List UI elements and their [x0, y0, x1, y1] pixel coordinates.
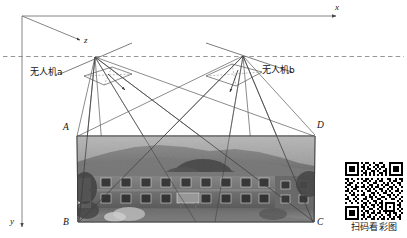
x-axis-label: x — [335, 3, 339, 12]
z-axis-label: z — [84, 36, 88, 45]
ground-photograph — [77, 136, 315, 222]
corner-label-C: C — [317, 218, 323, 228]
uav-b-label: 无人机b — [262, 66, 295, 75]
ground-photograph-content — [77, 136, 315, 222]
qr-block: 扫码看彩图 — [344, 162, 404, 233]
uav-b-optical-axis-arrow — [230, 70, 238, 92]
figure-container: x y z 无人机a 无人机b A B C D — [0, 0, 407, 238]
uav-b-quad-diagonal-2 — [232, 64, 236, 86]
qr-caption: 扫码看彩图 — [344, 223, 404, 233]
corner-label-A: A — [63, 123, 69, 133]
uav-b-ray-to-A — [78, 56, 243, 136]
z-axis — [22, 16, 80, 40]
corner-label-D: D — [317, 121, 324, 131]
uav-a-ray-to-A — [77, 57, 95, 136]
corner-label-B: B — [63, 218, 69, 228]
y-axis-label: y — [10, 217, 14, 226]
qr-code-image[interactable] — [345, 162, 403, 220]
uav-a-label: 无人机a — [30, 68, 63, 77]
uav-a-image-plane-quad — [84, 67, 132, 85]
